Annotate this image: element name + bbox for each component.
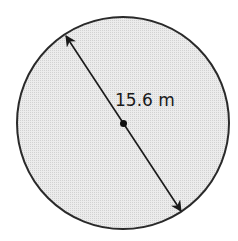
circle-diagram: 15.6 m	[0, 0, 238, 241]
diameter-label: 15.6 m	[115, 90, 175, 110]
center-point	[120, 120, 127, 127]
